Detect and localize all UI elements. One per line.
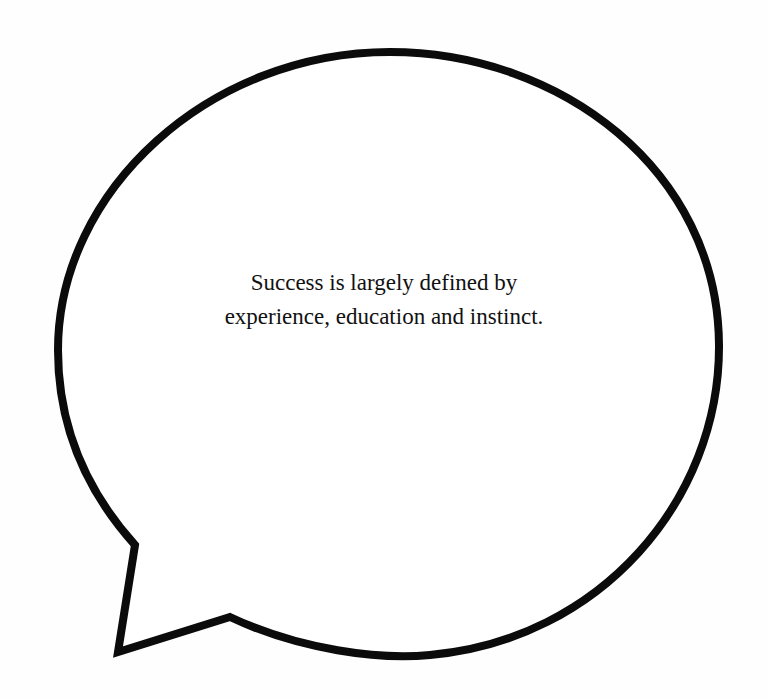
speech-bubble-outline [58,52,719,656]
speech-line-1: Success is largely defined by [0,266,768,300]
canvas: Success is largely defined by experience… [0,0,768,698]
speech-line-2: experience, education and instinct. [0,300,768,334]
speech-bubble-text: Success is largely defined by experience… [0,266,768,334]
speech-bubble-shape [0,0,768,698]
